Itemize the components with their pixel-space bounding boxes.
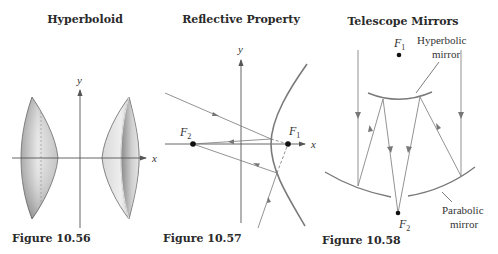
reflective-property-figure: x y F2 F1 (165, 43, 316, 228)
hyperboloid-figure: x y (12, 74, 157, 228)
y-axis-label: y (237, 43, 243, 55)
diagram-canvas: x y x y F2 F1 F1 (0, 0, 498, 254)
reflected-ray-lower (193, 144, 277, 173)
focus-f1-point (397, 53, 402, 58)
parabolic-mirror-right (408, 167, 475, 196)
y-axis-label: y (76, 74, 82, 86)
parabolic-mirror-label-line1: Parabolic (442, 204, 484, 216)
hyperbolic-mirror (368, 92, 432, 99)
focus-f2-label: F2 (179, 125, 191, 141)
reflected-ray-right-up (420, 97, 461, 176)
focus-f2-point (190, 141, 196, 147)
focus-f1-label: F1 (393, 36, 405, 52)
arrow-icon (406, 146, 412, 153)
parabolic-mirror-leader (442, 192, 452, 202)
arrow-icon (267, 197, 271, 203)
focus-f2-label: F2 (398, 217, 410, 233)
dashed-ray-lower (277, 144, 288, 173)
arrow-icon (355, 112, 361, 119)
focus-f2-point (396, 211, 401, 216)
focus-f1-point (285, 141, 291, 147)
arrow-icon (458, 112, 464, 119)
hyperbolic-mirror-leader (416, 62, 439, 93)
hyperbolic-mirror-label-line2: mirror (432, 48, 460, 60)
arrow-icon (368, 125, 373, 132)
telescope-mirrors-figure: F1 Hyperbolic mirror Parabolic mirror F2 (325, 34, 484, 233)
focus-f1-label: F1 (288, 124, 300, 140)
reflected-ray-left-up (358, 99, 383, 186)
x-axis-label: x (151, 152, 157, 164)
x-axis-label: x (310, 138, 316, 150)
arrow-icon (212, 112, 219, 116)
hyperbolic-mirror-label-line1: Hyperbolic (417, 34, 467, 46)
parabolic-mirror-label-line2: mirror (450, 218, 478, 230)
